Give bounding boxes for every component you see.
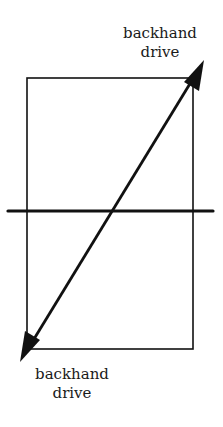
court-diagram [0,0,223,427]
top-shot-label-line2: drive [114,43,206,62]
top-shot-label-line1: backhand [114,24,206,43]
bottom-shot-label-line2: drive [26,384,118,403]
top-shot-label: backhand drive [114,24,206,62]
bottom-shot-label: backhand drive [26,365,118,403]
bottom-shot-label-line1: backhand [26,365,118,384]
